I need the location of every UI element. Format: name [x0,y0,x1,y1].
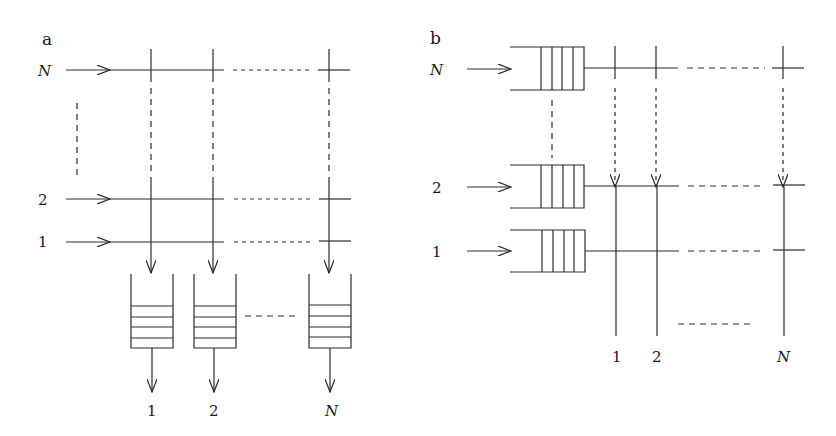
output-label-n: N [324,402,339,420]
panel-b-label: b [430,28,441,48]
output-label-1: 1 [612,348,622,366]
input-label-2: 2 [38,191,48,209]
output-queue-n [309,274,351,392]
output-queue-1 [131,274,173,392]
output-label-2: 2 [652,348,662,366]
output-queue-2 [194,274,236,392]
panel-a-label: a [42,29,52,49]
panel-a: a N 2 1 [37,29,351,420]
panel-b: b N 2 1 [429,28,805,366]
crossbar-columns [151,49,329,273]
input-label-1: 1 [38,233,48,251]
output-label-1: 1 [147,402,157,420]
input-queue-n [467,47,804,90]
input-label-n: N [37,62,52,80]
input-label-2: 2 [432,179,442,197]
switch-diagram: a N 2 1 [0,0,836,436]
input-queue-1 [467,230,805,272]
crossbar-columns [615,46,784,336]
output-label-2: 2 [209,402,219,420]
input-label-n: N [429,61,444,79]
input-queue-2 [467,165,805,208]
output-label-n: N [776,348,791,366]
input-row-1 [66,241,351,242]
input-label-1: 1 [432,243,442,261]
